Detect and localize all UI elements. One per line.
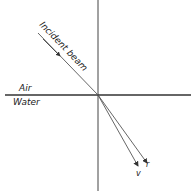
air-label: Air xyxy=(18,83,33,93)
water-label: Water xyxy=(13,97,41,107)
refraction-diagram: Incident beam Air Water v r xyxy=(0,0,191,193)
diagram-canvas: Incident beam Air Water v r xyxy=(0,0,191,193)
violet-ray xyxy=(98,95,138,166)
incident-beam-label: Incident beam xyxy=(38,19,90,73)
red-label: r xyxy=(146,160,150,169)
red-ray xyxy=(98,95,147,163)
violet-label: v xyxy=(136,169,141,178)
